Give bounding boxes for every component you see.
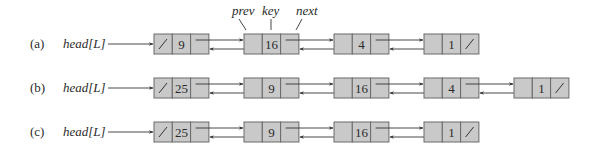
next-field xyxy=(461,78,479,98)
row-label: (b) xyxy=(30,80,45,95)
next-annotation: next xyxy=(296,3,318,18)
node-key: 25 xyxy=(175,81,188,96)
next-field xyxy=(371,78,389,98)
row-label: (c) xyxy=(30,124,44,139)
next-field xyxy=(281,34,299,54)
node-key: 16 xyxy=(355,81,369,96)
head-pointer-label: head[L] xyxy=(63,80,106,95)
prev-field xyxy=(514,78,532,98)
prev-annotation: prev xyxy=(231,3,255,18)
next-pointer-line xyxy=(296,19,302,30)
node-key: 9 xyxy=(268,125,275,140)
prev-field xyxy=(334,78,352,98)
list-row: (c)head[L]259161 xyxy=(30,122,479,142)
list-node: 9 xyxy=(244,122,346,142)
list-node: 16 xyxy=(334,78,436,98)
list-node: 16 xyxy=(334,122,436,142)
node-key: 9 xyxy=(178,37,185,52)
list-node: 9 xyxy=(154,34,256,54)
prev-field xyxy=(424,78,442,98)
prev-field xyxy=(244,34,262,54)
next-field xyxy=(281,122,299,142)
prev-field xyxy=(334,122,352,142)
list-node: 1 xyxy=(514,78,569,98)
list-node: 9 xyxy=(244,78,346,98)
prev-pointer-line xyxy=(239,19,246,30)
list-node: 4 xyxy=(424,78,526,98)
list-node: 4 xyxy=(334,34,436,54)
next-field xyxy=(371,34,389,54)
node-key: 16 xyxy=(265,37,279,52)
next-field xyxy=(191,78,209,98)
list-node: 25 xyxy=(154,78,256,98)
list-node: 16 xyxy=(244,34,346,54)
prev-field xyxy=(424,34,442,54)
prev-field xyxy=(334,34,352,54)
head-pointer-label: head[L] xyxy=(63,36,106,51)
node-key: 4 xyxy=(358,37,365,52)
list-row: (a)head[L]91641 xyxy=(30,34,479,54)
node-key: 9 xyxy=(268,81,275,96)
list-row: (b)head[L]2591641 xyxy=(30,78,569,98)
prev-field xyxy=(424,122,442,142)
node-key: 1 xyxy=(538,81,545,96)
next-field xyxy=(191,34,209,54)
node-key: 25 xyxy=(175,125,188,140)
node-key: 4 xyxy=(448,81,455,96)
list-node: 25 xyxy=(154,122,256,142)
field-annotations: prev key next xyxy=(231,3,318,30)
node-key: 1 xyxy=(448,125,455,140)
node-key: 1 xyxy=(448,37,455,52)
list-node: 1 xyxy=(424,122,479,142)
head-pointer-label: head[L] xyxy=(63,124,106,139)
key-annotation: key xyxy=(262,3,280,18)
row-label: (a) xyxy=(30,36,44,51)
linked-list-diagram: prev key next (a)head[L]91641(b)head[L]2… xyxy=(0,0,597,154)
next-field xyxy=(371,122,389,142)
prev-field xyxy=(244,78,262,98)
next-field xyxy=(281,78,299,98)
next-field xyxy=(191,122,209,142)
list-node: 1 xyxy=(424,34,479,54)
node-key: 16 xyxy=(355,125,369,140)
prev-field xyxy=(244,122,262,142)
